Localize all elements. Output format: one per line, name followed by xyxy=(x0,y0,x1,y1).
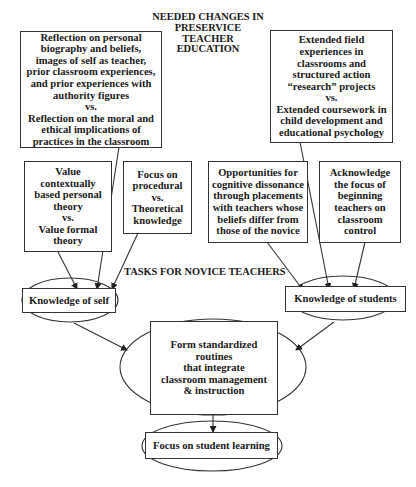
box-line: Reflection on personal xyxy=(40,32,141,44)
box-line: prior classroom experiences, xyxy=(27,66,156,78)
box-line: ethical implications of xyxy=(41,124,140,136)
box-line: classroom xyxy=(337,214,382,226)
box-line: classrooms and xyxy=(297,58,366,70)
node-label: Focus on student learning xyxy=(153,440,270,452)
node-routines: Form standardized routines that integrat… xyxy=(150,321,278,415)
node-line: & instruction xyxy=(184,385,245,397)
box-line: vs. xyxy=(85,101,97,113)
box-line: Reflection on the moral and xyxy=(28,113,154,125)
node-student-learning: Focus on student learning xyxy=(145,432,278,459)
edge-control-students xyxy=(354,242,365,289)
box-line: teachers on xyxy=(334,202,385,214)
node-knowledge-self: Knowledge of self xyxy=(22,288,116,313)
diagram-title: NEEDED CHANGES IN PRESERVICE TEACHER EDU… xyxy=(148,12,268,55)
node-line: Form standardized xyxy=(171,339,258,351)
box-line: structured action xyxy=(293,69,371,81)
section-label-tasks: TASKS FOR NOVICE TEACHERS xyxy=(124,266,286,277)
box-line: those of the novice xyxy=(216,225,299,237)
box-line: the focus of xyxy=(334,179,386,191)
box-line: vs. xyxy=(325,92,337,104)
box-line: Value formal xyxy=(39,224,98,236)
box-classroom-control: Acknowledge the focus of beginning teach… xyxy=(319,161,401,243)
node-label: Knowledge of self xyxy=(29,295,109,307)
box-line: Extended field xyxy=(299,34,365,46)
box-line: Value xyxy=(55,166,81,178)
box-line: based personal xyxy=(34,189,101,201)
box-line: control xyxy=(344,225,376,237)
box-line: theory xyxy=(53,235,82,247)
box-line: child development and xyxy=(280,115,382,127)
box-line: vs. xyxy=(62,212,74,224)
edge-procedural-self xyxy=(112,233,138,289)
box-line: procedural xyxy=(133,180,183,192)
box-line: knowledge xyxy=(133,215,181,227)
node-knowledge-students: Knowledge of students xyxy=(285,286,406,312)
box-line: through placements xyxy=(213,190,303,202)
node-line: classroom management xyxy=(161,374,267,386)
box-line: Theoretical xyxy=(132,203,184,215)
box-line: beginning xyxy=(338,190,383,202)
node-line: that integrate xyxy=(183,362,244,374)
box-line: images of self as teacher, xyxy=(36,55,147,67)
node-label: Knowledge of students xyxy=(294,293,396,305)
box-field-experiences: Extended field experiences in classrooms… xyxy=(270,30,393,143)
box-cognitive-dissonance: Opportunities for cognitive dissonance t… xyxy=(208,161,308,243)
box-line: educational psychology xyxy=(279,127,384,139)
box-line: practices in the classroom xyxy=(33,136,150,148)
box-value-theory: Value contextually based personal theory… xyxy=(24,161,112,252)
box-line: theory xyxy=(53,201,82,213)
box-line: Acknowledge xyxy=(330,167,391,179)
box-line: and prior experiences with xyxy=(31,78,152,90)
box-line: cognitive dissonance xyxy=(212,179,304,191)
box-line: with teachers whose xyxy=(213,202,304,214)
box-procedural: Focus on procedural vs. Theoretical know… xyxy=(123,161,192,234)
box-line: authority figures xyxy=(53,90,129,102)
box-reflection: Reflection on personal biography and bel… xyxy=(20,31,162,148)
box-line: Opportunities for xyxy=(218,167,298,179)
box-line: Extended coursework in xyxy=(276,104,386,116)
edge-value-self xyxy=(58,252,77,289)
edge-students-routines xyxy=(296,322,334,350)
node-line: routines xyxy=(196,351,233,363)
box-line: beliefs differ from xyxy=(217,214,298,226)
title-line: PRESERVICE xyxy=(148,23,268,34)
box-line: Focus on xyxy=(137,169,177,181)
box-line: biography and beliefs, xyxy=(41,43,141,55)
box-line: vs. xyxy=(151,192,163,204)
box-line: “research” projects xyxy=(288,81,376,93)
box-line: contextually xyxy=(40,178,95,190)
box-line: experiences in xyxy=(300,46,364,58)
title-line: EDUCATION xyxy=(148,44,268,55)
edge-self-routines xyxy=(74,323,127,350)
